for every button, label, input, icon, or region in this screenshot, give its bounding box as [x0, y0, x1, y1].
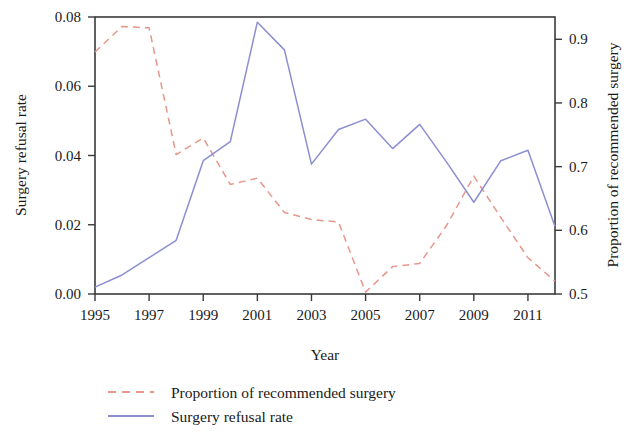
y-tick-label: 0.02	[55, 217, 81, 233]
x-axis-title: Year	[311, 346, 340, 363]
y2-tick-label: 0.6	[569, 222, 588, 238]
plot-area-border	[95, 17, 555, 294]
data-series-layer	[95, 22, 555, 292]
y-axis-left-title: Surgery refusal rate	[12, 94, 29, 216]
legend-label: Surgery refusal rate	[171, 408, 293, 425]
x-tick-label: 1995	[80, 307, 110, 323]
chart-legend: Proportion of recommended surgerySurgery…	[108, 384, 396, 425]
x-tick-label: 2007	[405, 307, 436, 323]
x-axis-tick-labels: 199519971999200120032005200720092011	[80, 307, 543, 323]
chart-figure: 199519971999200120032005200720092011 0.0…	[0, 0, 632, 437]
y2-tick-label: 0.9	[569, 31, 588, 47]
y-tick-label: 0.00	[55, 286, 81, 302]
y-axis-left-tick-labels: 0.000.020.040.060.08	[55, 9, 82, 302]
y-axis-left-ticks	[88, 17, 95, 294]
y2-tick-label: 0.5	[569, 286, 588, 302]
y-tick-label: 0.04	[55, 148, 82, 164]
legend-label: Proportion of recommended surgery	[171, 384, 396, 401]
y-axis-right-tick-labels: 0.50.60.70.80.9	[569, 31, 588, 302]
x-tick-label: 1997	[134, 307, 165, 323]
series-line	[95, 22, 555, 287]
y2-tick-label: 0.7	[569, 159, 588, 175]
x-tick-label: 2005	[351, 307, 381, 323]
x-axis-ticks	[95, 294, 528, 301]
line-chart: 199519971999200120032005200720092011 0.0…	[0, 0, 632, 437]
x-tick-label: 2003	[296, 307, 326, 323]
y-axis-right-ticks	[555, 39, 562, 294]
y2-tick-label: 0.8	[569, 95, 588, 111]
x-tick-label: 2009	[459, 307, 489, 323]
y-tick-label: 0.08	[55, 9, 81, 25]
x-tick-label: 2001	[242, 307, 272, 323]
series-line	[95, 27, 555, 293]
y-axis-right-title: Proportion of recommended surgery	[604, 42, 621, 267]
y-tick-label: 0.06	[55, 78, 82, 94]
x-tick-label: 2011	[513, 307, 542, 323]
x-tick-label: 1999	[188, 307, 218, 323]
